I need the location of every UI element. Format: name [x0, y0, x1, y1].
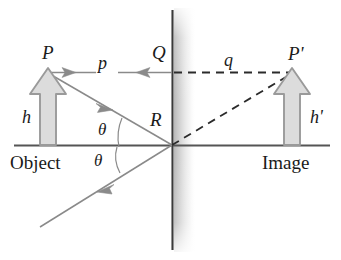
optics-ray-diagram: P p Q q P' h h' R θ θ Object Image — [0, 0, 341, 260]
object-distance-dimension — [48, 64, 172, 81]
label-image-height-h-prime: h' — [310, 108, 323, 126]
image-block-arrow — [274, 68, 310, 145]
angle-reflection-arc — [116, 147, 120, 173]
ray-arrowhead-icon — [96, 104, 113, 113]
label-angle-incidence-theta: θ — [98, 121, 106, 138]
label-angle-reflection-theta: θ — [94, 152, 102, 169]
label-reflection-point-R: R — [150, 110, 162, 129]
label-mirror-top-Q: Q — [152, 43, 166, 62]
caption-image: Image — [262, 153, 309, 172]
label-image-distance-q: q — [224, 51, 233, 69]
label-object-height-h: h — [22, 108, 31, 126]
label-image-tip-P-prime: P' — [288, 44, 304, 63]
label-object-tip-P: P — [42, 43, 54, 62]
mirror-shading — [174, 8, 196, 252]
label-object-distance-p: p — [98, 54, 107, 72]
angle-incidence-arc — [118, 118, 122, 147]
diagram-canvas — [0, 0, 341, 260]
caption-object: Object — [10, 153, 61, 172]
